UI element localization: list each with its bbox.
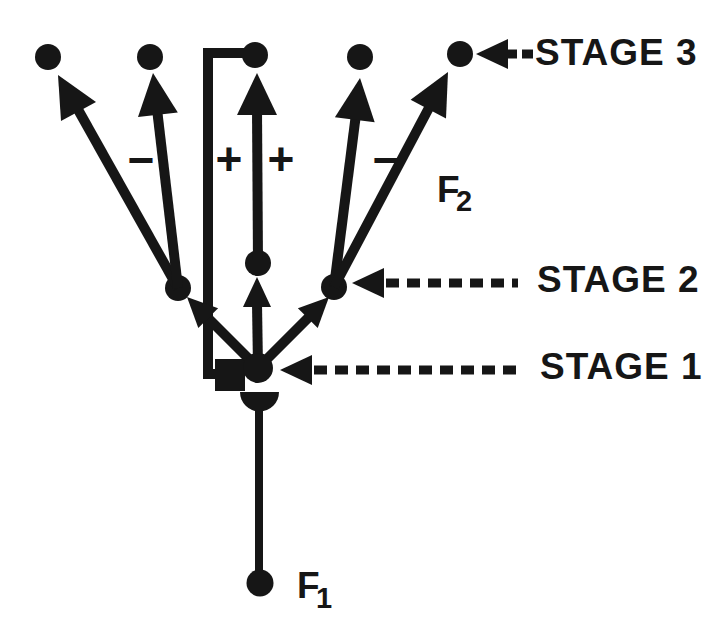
arrowhead-icon: [335, 78, 375, 122]
f1-node: [247, 570, 274, 597]
f1-afferent: [240, 392, 279, 597]
stage3-node-5: [447, 41, 473, 67]
stage1-label: STAGE 1: [540, 346, 703, 387]
arrow-to-left-node: [187, 297, 258, 368]
minus-sign-right: −: [373, 134, 400, 186]
arrow-to-right-node: [258, 297, 329, 368]
square-synapse-terminal: [215, 359, 245, 391]
arrow-shaft: [257, 109, 258, 263]
stage3-nodes: [35, 41, 473, 70]
arrowhead-icon: [237, 73, 277, 115]
f1-label: F 1: [297, 565, 332, 614]
pointer-arrowhead-icon: [280, 355, 312, 385]
stage2-label: STAGE 2: [537, 259, 700, 300]
stage3-node-4: [347, 44, 373, 70]
stage1-pointer: [280, 355, 519, 385]
stage3-pointer: [476, 39, 533, 69]
plus-sign-right: +: [268, 133, 295, 185]
f2-label: F 2: [437, 169, 472, 217]
stage3-node-1: [35, 44, 61, 70]
minus-sign-left: −: [128, 134, 155, 186]
f2-label-subscript: 2: [456, 185, 472, 217]
arrowhead-icon: [243, 277, 271, 307]
plus-sign-left: +: [216, 133, 243, 185]
stage1-node: [243, 353, 273, 383]
pointer-arrowhead-icon: [352, 268, 384, 298]
circuit-diagram-figure: STAGE 3 STAGE 2 STAGE 1 F 2 F 1 − + + −: [0, 0, 704, 643]
stage2-pointer: [352, 268, 518, 298]
diagram-canvas: STAGE 3 STAGE 2 STAGE 1 F 2 F 1 − + + −: [0, 0, 704, 643]
stage3-node-2: [137, 44, 163, 70]
pointer-arrowhead-icon: [476, 39, 508, 69]
arrowhead-icon: [138, 73, 178, 117]
stage3-label: STAGE 3: [535, 32, 698, 73]
f1-label-subscript: 1: [316, 582, 332, 614]
